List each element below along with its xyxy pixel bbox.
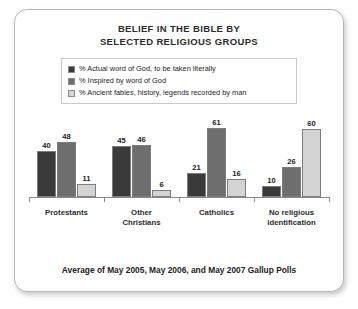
bar-item: 26 <box>282 113 301 197</box>
legend-item-label: % Actual word of God, to be taken litera… <box>79 63 216 75</box>
category-labels: ProtestantsOtherChristiansCatholicsNo re… <box>29 208 329 228</box>
category-label: Protestants <box>29 208 104 228</box>
bar-item: 40 <box>37 113 56 197</box>
category-label-line-1: Protestants <box>29 208 104 218</box>
bar <box>282 167 301 197</box>
x-axis-tick <box>179 197 180 202</box>
bar-group: 45466 <box>104 113 179 197</box>
bar-group: 216116 <box>179 113 254 197</box>
bar-value-label: 26 <box>287 157 295 166</box>
category-label-line-1: No religious <box>254 208 329 218</box>
chart-plot-area: 40481145466216116102660 <box>29 113 329 197</box>
bar-value-label: 46 <box>137 135 145 144</box>
legend-item: % Ancient fables, history, legends recor… <box>68 87 288 99</box>
category-label-line-1: Catholics <box>179 208 254 218</box>
bar-value-label: 21 <box>192 163 200 172</box>
bar-item: 6 <box>152 113 171 197</box>
bar-value-label: 40 <box>42 141 50 150</box>
chart-legend: % Actual word of God, to be taken litera… <box>61 58 297 104</box>
chart-title-line-1: BELIEF IN THE BIBLE BY <box>100 23 258 36</box>
category-label-line-2: Christians <box>104 218 179 228</box>
bar-value-label: 48 <box>62 132 70 141</box>
bar-value-label: 61 <box>212 118 220 127</box>
x-axis-tick <box>104 197 105 202</box>
legend-item-label: % Inspired by word of God <box>79 75 166 87</box>
bar <box>57 142 76 197</box>
bar-value-label: 45 <box>117 136 125 145</box>
chart-title: BELIEF IN THE BIBLE BY SELECTED RELIGIOU… <box>100 23 258 48</box>
category-label-line-1: Other <box>104 208 179 218</box>
legend-item: % Actual word of God, to be taken litera… <box>68 63 288 75</box>
bar <box>302 129 321 197</box>
bar-group: 102660 <box>254 113 329 197</box>
legend-swatch-fables <box>68 90 75 97</box>
bar-item: 16 <box>227 113 246 197</box>
category-label-line-2: identification <box>254 218 329 228</box>
x-axis-tick <box>29 197 30 202</box>
chart-title-line-2: SELECTED RELIGIOUS GROUPS <box>100 36 258 49</box>
bar-value-label: 11 <box>82 174 90 183</box>
legend-item: % Inspired by word of God <box>68 75 288 87</box>
bar <box>152 190 171 197</box>
bar-item: 10 <box>262 113 281 197</box>
x-axis-tick <box>254 197 255 202</box>
bar-groups: 40481145466216116102660 <box>29 113 329 197</box>
bar <box>262 186 281 197</box>
chart-footer-caption: Average of May 2005, May 2006, and May 2… <box>62 265 296 275</box>
bar-group: 404811 <box>29 113 104 197</box>
legend-item-label: % Ancient fables, history, legends recor… <box>79 87 246 99</box>
bar <box>112 146 131 197</box>
bar-value-label: 6 <box>159 180 163 189</box>
bar <box>132 145 151 197</box>
legend-swatch-inspired <box>68 78 75 85</box>
bar-item: 60 <box>302 113 321 197</box>
bar-item: 48 <box>57 113 76 197</box>
screenshot-stage: BELIEF IN THE BIBLE BY SELECTED RELIGIOU… <box>0 0 358 309</box>
bar-item: 61 <box>207 113 226 197</box>
bar <box>187 173 206 197</box>
legend-swatch-actual-word <box>68 66 75 73</box>
bar-value-label: 10 <box>267 176 275 185</box>
bar <box>227 179 246 197</box>
chart-card: BELIEF IN THE BIBLE BY SELECTED RELIGIOU… <box>14 9 344 292</box>
category-label: No religiousidentification <box>254 208 329 228</box>
x-axis-tick <box>329 197 330 202</box>
bar <box>77 184 96 197</box>
bar <box>207 128 226 197</box>
category-label: OtherChristians <box>104 208 179 228</box>
bar-item: 21 <box>187 113 206 197</box>
bar-item: 45 <box>112 113 131 197</box>
bar-value-label: 16 <box>232 169 240 178</box>
bar-value-label: 60 <box>307 119 315 128</box>
bar <box>37 151 56 197</box>
bar-item: 11 <box>77 113 96 197</box>
bar-item: 46 <box>132 113 151 197</box>
category-label: Catholics <box>179 208 254 228</box>
